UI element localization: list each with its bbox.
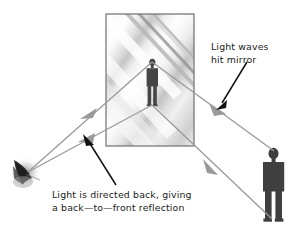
mirror-label-line-2: hit mirror xyxy=(211,54,269,67)
diagram-canvas: Light waves hit mirror Light is directed… xyxy=(0,0,296,242)
light-directed-back-label: Light is directed back, giving a back—to… xyxy=(52,189,192,214)
light-waves-hit-mirror-label: Light waves hit mirror xyxy=(211,41,269,66)
mirror-label-pointer-arrow xyxy=(216,62,247,110)
candle-flame-object xyxy=(8,157,42,188)
reflection-label-line-2: a back—to—front reflection xyxy=(52,202,192,215)
viewer-person-silhouette xyxy=(263,148,284,222)
mirror-label-line-1: Light waves xyxy=(211,41,269,54)
reflection-label-line-1: Light is directed back, giving xyxy=(52,189,192,202)
ray-arrowhead-upper-left xyxy=(80,108,97,119)
